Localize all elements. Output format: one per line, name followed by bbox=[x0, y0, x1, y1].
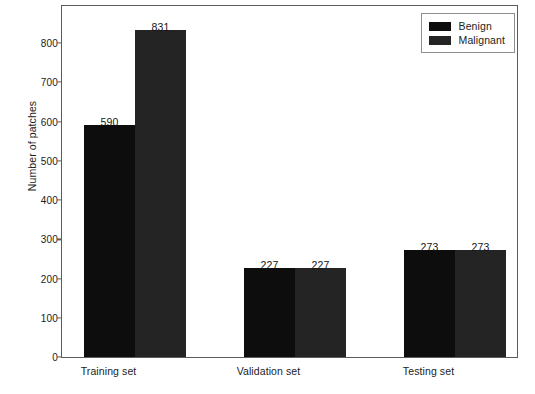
bar-value-benign-validation: 227 bbox=[260, 259, 278, 271]
bar-benign-validation[interactable] bbox=[244, 268, 295, 357]
bar-malignant-testing[interactable] bbox=[455, 250, 506, 357]
legend-label-malignant: Malignant bbox=[459, 34, 505, 46]
y-tick-label-200: 200 bbox=[0, 273, 58, 284]
bar-value-malignant-testing: 273 bbox=[471, 241, 489, 253]
y-tick-label-500: 500 bbox=[0, 155, 58, 166]
legend-item-malignant[interactable]: Malignant bbox=[429, 33, 505, 47]
bar-value-malignant-training: 831 bbox=[151, 21, 169, 33]
figure-container: Number of patches 0 100 200 300 400 500 … bbox=[0, 0, 535, 394]
bar-value-malignant-validation: 227 bbox=[311, 259, 329, 271]
y-tick-label-300: 300 bbox=[0, 234, 58, 245]
legend-label-benign: Benign bbox=[459, 20, 492, 32]
x-tick-label-training: Training set bbox=[81, 365, 137, 377]
y-tick-label-0: 0 bbox=[0, 352, 58, 363]
bar-value-benign-training: 590 bbox=[100, 116, 118, 128]
x-tick-label-testing: Testing set bbox=[403, 365, 454, 377]
legend-item-benign[interactable]: Benign bbox=[429, 19, 505, 33]
bar-malignant-validation[interactable] bbox=[295, 268, 346, 357]
plot-area: 590 831 227 227 273 273 Benign Malignant bbox=[61, 5, 518, 358]
bar-value-benign-testing: 273 bbox=[420, 241, 438, 253]
y-tick-label-700: 700 bbox=[0, 77, 58, 88]
y-tick-label-100: 100 bbox=[0, 313, 58, 324]
legend: Benign Malignant bbox=[421, 13, 515, 53]
y-tick-label-400: 400 bbox=[0, 195, 58, 206]
x-tick-label-validation: Validation set bbox=[237, 365, 301, 377]
bar-benign-training[interactable] bbox=[84, 125, 135, 357]
y-tick-label-600: 600 bbox=[0, 116, 58, 127]
y-tick-label-800: 800 bbox=[0, 37, 58, 48]
legend-swatch-malignant-icon bbox=[429, 36, 451, 45]
bar-benign-testing[interactable] bbox=[404, 250, 455, 357]
legend-swatch-benign-icon bbox=[429, 22, 451, 31]
bar-malignant-training[interactable] bbox=[135, 30, 186, 357]
